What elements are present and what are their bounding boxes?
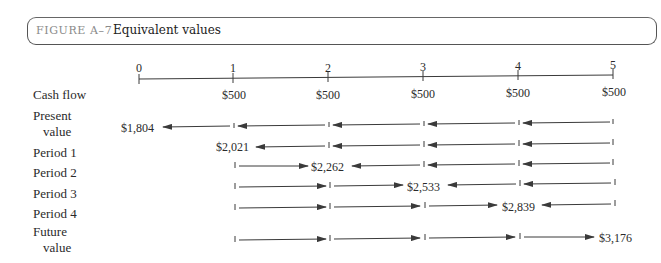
period-2-arrows: [235, 159, 613, 168]
present-value-arrows: [163, 119, 613, 128]
timeline-axis: [139, 69, 613, 84]
equivalent-values-diagram: [0, 0, 661, 263]
future-value-arrows: [235, 233, 594, 242]
period-4-arrows: [235, 200, 615, 210]
period-1-arrows: [256, 139, 613, 148]
period-3-arrows: [235, 179, 615, 189]
